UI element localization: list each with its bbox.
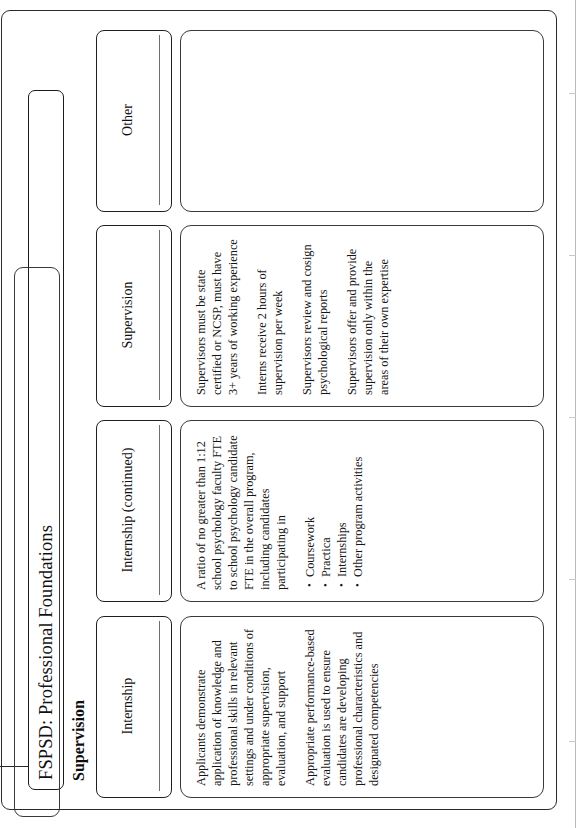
column-body-supervision: Supervisors must be state certified or N… — [180, 225, 544, 407]
scan-edge-tick — [569, 255, 576, 256]
rotated-page-wrapper: FSPSD: Professional Foundations Supervis… — [0, 0, 578, 828]
column-header-supervision: Supervision — [96, 225, 172, 407]
paragraph: Supervisors must be state certified or N… — [194, 237, 242, 395]
list-item: Other program activities — [351, 432, 367, 577]
paragraph: Interns receive 2 hours of supervision p… — [255, 237, 287, 395]
column-header-internship: Internship — [96, 616, 172, 798]
section-heading: Supervision — [70, 700, 88, 781]
paragraph: Supervisors offer and provide supervisio… — [345, 237, 393, 395]
column-header-other: Other — [96, 30, 172, 212]
table-column-supervision: Supervision Supervisors must be state ce… — [96, 225, 544, 407]
column-body-internship-continued: A ratio of no greater than 1:12 school p… — [180, 420, 544, 602]
column-header-internship-continued: Internship (continued) — [96, 420, 172, 602]
scan-edge-tick — [569, 417, 576, 418]
column-header-label: Internship (continued) — [97, 419, 159, 601]
column-header-label: Other — [97, 29, 159, 211]
column-header-rule — [159, 621, 160, 791]
standards-table: Internship Applicants demonstrate applic… — [96, 24, 544, 798]
scan-edge-line — [575, 0, 576, 828]
paragraph: Supervisors review and cosign psychologi… — [300, 237, 332, 395]
trailing-empty-panel — [14, 267, 60, 817]
column-body-other — [180, 30, 544, 212]
table-column-internship-continued: Internship (continued) A ratio of no gre… — [96, 420, 544, 602]
column-header-rule — [159, 425, 160, 595]
column-header-rule — [159, 35, 160, 205]
list-item: Coursework — [303, 432, 319, 577]
scan-edge-tick — [569, 741, 576, 742]
bullet-list: Coursework Practica Internships Other pr… — [303, 432, 367, 590]
column-header-rule — [159, 230, 160, 400]
paragraph: A ratio of no greater than 1:12 school p… — [194, 432, 290, 590]
paragraph: Applicants demonstrate application of kn… — [194, 628, 290, 786]
column-body-internship: Applicants demonstrate application of kn… — [180, 616, 544, 798]
table-column-internship: Internship Applicants demonstrate applic… — [96, 616, 544, 798]
scan-edge-tick — [569, 579, 576, 580]
table-column-other: Other — [96, 30, 544, 212]
document-page: FSPSD: Professional Foundations Supervis… — [0, 0, 578, 828]
column-header-label: Supervision — [97, 224, 159, 406]
scan-edge-tick — [569, 93, 576, 94]
list-item: Internships — [335, 432, 351, 577]
column-header-label: Internship — [97, 615, 159, 797]
paragraph: Appropriate performance-based evaluation… — [303, 628, 383, 786]
list-item: Practica — [319, 432, 335, 577]
